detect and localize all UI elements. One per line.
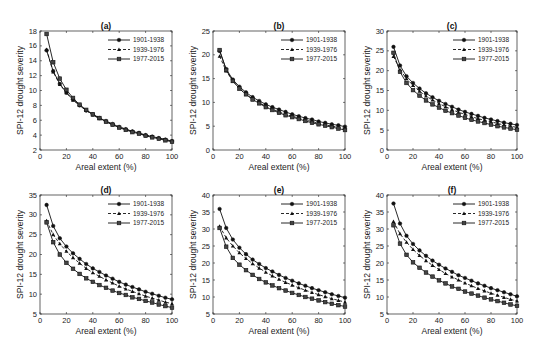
square-marker [462,221,466,225]
circle-marker [164,296,168,300]
square-marker [496,124,500,128]
circle-marker [124,283,128,287]
square-marker [157,303,161,307]
square-marker [450,111,454,115]
square-marker [257,102,261,106]
circle-marker [117,38,121,42]
y-tick-label: 10 [202,98,210,107]
y-tick-label: 16 [29,41,37,50]
legend-entry: 1977-2015 [133,55,164,62]
square-marker [137,297,141,301]
panel-title: (a) [101,21,112,31]
legend-entry: 1901-1938 [306,200,337,207]
square-marker [444,109,448,113]
circle-marker [144,290,148,294]
square-marker [462,57,466,61]
square-marker [91,113,95,117]
y-tick-label: 5 [206,310,210,319]
y-axis-label: SPI-12 drought severity [15,45,25,135]
legend-entry: 1977-2015 [133,219,164,226]
square-marker [150,301,154,305]
square-marker [450,285,454,289]
square-marker [264,105,268,109]
circle-marker [444,267,448,271]
y-tick-label: 10 [376,106,384,115]
x-axis-label: Areal extent (%) [249,162,310,172]
y-tick-label: 20 [376,259,384,268]
x-tick-label: 80 [141,152,149,161]
square-marker [58,253,62,257]
square-marker [437,279,441,283]
square-marker [476,294,480,298]
y-tick-label: 35 [202,208,210,217]
square-marker [150,136,154,140]
square-marker [317,122,321,126]
y-tick-label: 20 [202,259,210,268]
x-tick-label: 60 [288,316,296,325]
x-tick-label: 20 [62,152,70,161]
square-marker [290,57,294,61]
y-tick-label: 25 [29,230,37,239]
square-marker [483,296,487,300]
x-tick-label: 80 [141,316,149,325]
square-marker [515,304,519,308]
x-tick-label: 80 [487,152,495,161]
circle-marker [418,249,422,253]
square-marker [264,281,268,285]
square-marker [218,48,222,52]
square-marker [164,139,168,143]
x-tick-label: 100 [511,316,524,325]
chart-panel-d: 0204060801005101520253035(d)Areal extent… [15,185,178,337]
circle-marker [343,296,347,300]
circle-marker [117,202,121,206]
circle-marker [231,238,235,242]
legend-entry: 1901-1938 [478,200,509,207]
circle-marker [310,286,314,290]
square-marker [71,267,75,271]
circle-marker [111,277,115,281]
square-marker [238,87,242,91]
x-tick-label: 100 [339,152,352,161]
panel-title: (c) [447,21,458,31]
y-tick-label: 5 [380,310,384,319]
circle-marker [277,273,281,277]
circle-marker [91,267,95,271]
y-tick-label: 25 [376,242,384,251]
square-marker [424,99,428,103]
circle-marker [257,262,261,266]
square-marker [224,68,228,72]
x-tick-label: 20 [235,152,243,161]
x-tick-label: 0 [211,152,215,161]
circle-marker [437,263,441,267]
circle-marker [489,286,493,290]
chart-panel-f: 020406080100510152025303540(f)Areal exte… [362,185,523,337]
square-marker [431,103,435,107]
circle-marker [411,242,415,246]
x-tick-label: 60 [115,152,123,161]
chart-panel-e: 020406080100510152025303540(e)Areal exte… [188,185,351,337]
square-marker [84,108,88,112]
legend-entry: 1939-1976 [306,210,337,217]
square-marker [137,132,141,136]
square-marker [117,221,121,225]
circle-marker [297,282,301,286]
circle-marker [330,292,334,296]
square-marker [343,128,347,132]
circle-marker [450,270,454,274]
x-tick-label: 20 [62,316,70,325]
legend-entry: 1901-1938 [133,36,164,43]
square-marker [271,108,275,112]
circle-marker [71,252,75,256]
legend-entry: 1977-2015 [306,219,337,226]
y-tick-label: 30 [376,225,384,234]
x-tick-label: 60 [461,316,469,325]
square-marker [58,77,62,81]
square-marker [65,261,69,265]
square-marker [424,271,428,275]
x-tick-label: 20 [409,152,417,161]
x-tick-label: 40 [89,152,97,161]
square-marker [131,130,135,134]
square-marker [98,283,102,287]
square-marker [51,240,55,244]
square-marker [218,226,222,230]
